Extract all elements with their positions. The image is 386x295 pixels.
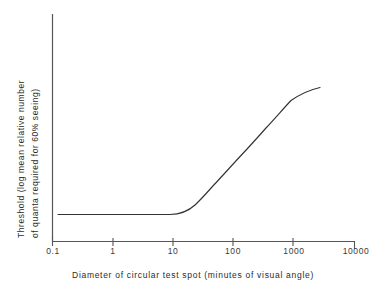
- x-tick-label-2: 10: [168, 246, 179, 256]
- x-tick-label-3: 100: [225, 246, 241, 256]
- x-axis-label: Diameter of circular test spot (minutes …: [0, 270, 386, 280]
- chart-figure: Threshold (log mean relative number of q…: [0, 0, 386, 295]
- x-tick-label-5: 10000: [343, 246, 370, 256]
- threshold-curve: [58, 88, 320, 215]
- x-tick-label-4: 1000: [283, 246, 304, 256]
- x-axis-ticks: [53, 236, 355, 249]
- x-tick-label-0: 0.1: [46, 246, 60, 256]
- x-tick-label-1: 1: [110, 246, 115, 256]
